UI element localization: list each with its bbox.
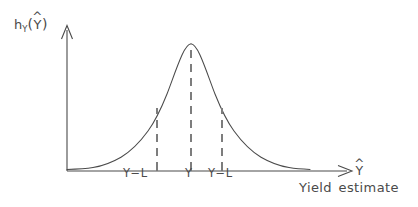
x-axis-hat-group: ^Y [355, 165, 364, 178]
reference-lines [157, 45, 222, 170]
hat-accent-icon: ^ [32, 11, 42, 23]
y-axis [62, 26, 73, 172]
y-axis-label-hat-group: ^Y [33, 18, 42, 31]
tick-label-lower-limit: Y−L [123, 168, 148, 180]
x-axis-variable-label: ^Y [355, 165, 364, 178]
tick-label-mean: Y [185, 168, 193, 180]
y-axis-label-close-paren: ) [42, 17, 47, 31]
y-axis-label-base: h [14, 18, 22, 31]
y-axis-label: hY(^Y) [14, 17, 47, 31]
figure-container: hY(^Y) ^Y Y−L Y Y−L Yield estimate [0, 0, 418, 207]
hat-accent-icon: ^ [354, 158, 364, 170]
tick-label-upper-limit: Y−L [208, 168, 233, 180]
y-axis-label-subscript: Y [22, 25, 27, 34]
density-curve [67, 44, 310, 170]
x-axis-caption: Yield estimate [299, 181, 399, 194]
